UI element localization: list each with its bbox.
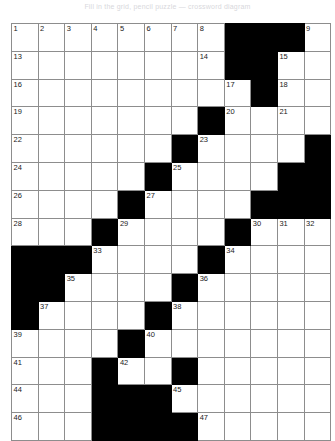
crossword-cell[interactable] — [304, 357, 331, 385]
crossword-cell[interactable] — [224, 301, 251, 329]
crossword-cell[interactable]: 26 — [12, 190, 39, 218]
crossword-cell[interactable] — [251, 107, 278, 135]
crossword-cell[interactable]: 22 — [12, 135, 39, 163]
crossword-cell[interactable] — [38, 107, 65, 135]
crossword-cell[interactable]: 6 — [144, 24, 171, 52]
crossword-cell[interactable] — [38, 413, 65, 441]
crossword-cell[interactable]: 34 — [224, 246, 251, 274]
crossword-cell[interactable] — [38, 218, 65, 246]
crossword-cell[interactable] — [304, 274, 331, 302]
crossword-cell[interactable] — [198, 357, 225, 385]
crossword-cell[interactable] — [224, 190, 251, 218]
crossword-cell[interactable]: 46 — [12, 413, 39, 441]
crossword-cell[interactable] — [224, 135, 251, 163]
crossword-cell[interactable] — [251, 413, 278, 441]
crossword-cell[interactable] — [251, 385, 278, 413]
crossword-cell[interactable] — [91, 162, 118, 190]
crossword-cell[interactable] — [171, 51, 198, 79]
crossword-cell[interactable] — [144, 274, 171, 302]
crossword-cell[interactable] — [224, 385, 251, 413]
crossword-cell[interactable] — [198, 190, 225, 218]
crossword-cell[interactable] — [65, 329, 92, 357]
crossword-cell[interactable]: 23 — [198, 135, 225, 163]
crossword-cell[interactable] — [224, 162, 251, 190]
crossword-cell[interactable]: 19 — [12, 107, 39, 135]
crossword-cell[interactable] — [224, 274, 251, 302]
crossword-cell[interactable] — [224, 413, 251, 441]
crossword-cell[interactable] — [118, 135, 145, 163]
crossword-cell[interactable] — [65, 301, 92, 329]
crossword-cell[interactable] — [38, 79, 65, 107]
crossword-cell[interactable]: 37 — [38, 301, 65, 329]
crossword-cell[interactable] — [198, 301, 225, 329]
crossword-cell[interactable] — [171, 107, 198, 135]
crossword-cell[interactable] — [65, 413, 92, 441]
crossword-cell[interactable]: 40 — [144, 329, 171, 357]
crossword-cell[interactable]: 32 — [304, 218, 331, 246]
crossword-cell[interactable] — [118, 301, 145, 329]
crossword-cell[interactable] — [65, 51, 92, 79]
crossword-cell[interactable] — [38, 357, 65, 385]
crossword-cell[interactable] — [251, 246, 278, 274]
crossword-cell[interactable]: 45 — [171, 385, 198, 413]
crossword-cell[interactable]: 38 — [171, 301, 198, 329]
crossword-cell[interactable] — [144, 357, 171, 385]
crossword-cell[interactable] — [304, 329, 331, 357]
crossword-cell[interactable] — [118, 162, 145, 190]
crossword-cell[interactable] — [304, 246, 331, 274]
crossword-cell[interactable] — [91, 329, 118, 357]
crossword-cell[interactable] — [277, 385, 304, 413]
crossword-cell[interactable] — [65, 385, 92, 413]
crossword-cell[interactable]: 9 — [304, 24, 331, 52]
crossword-cell[interactable] — [118, 79, 145, 107]
crossword-cell[interactable] — [171, 246, 198, 274]
crossword-cell[interactable] — [118, 107, 145, 135]
crossword-cell[interactable]: 27 — [144, 190, 171, 218]
crossword-cell[interactable]: 25 — [171, 162, 198, 190]
crossword-cell[interactable]: 17 — [224, 79, 251, 107]
crossword-cell[interactable] — [224, 357, 251, 385]
crossword-cell[interactable] — [251, 162, 278, 190]
crossword-cell[interactable] — [251, 329, 278, 357]
crossword-cell[interactable]: 8 — [198, 24, 225, 52]
crossword-cell[interactable] — [304, 107, 331, 135]
crossword-cell[interactable]: 5 — [118, 24, 145, 52]
crossword-cell[interactable] — [144, 218, 171, 246]
crossword-cell[interactable] — [198, 79, 225, 107]
crossword-cell[interactable] — [277, 413, 304, 441]
crossword-cell[interactable] — [65, 107, 92, 135]
crossword-cell[interactable] — [91, 79, 118, 107]
crossword-cell[interactable] — [38, 329, 65, 357]
crossword-cell[interactable] — [304, 79, 331, 107]
crossword-cell[interactable] — [65, 135, 92, 163]
crossword-cell[interactable]: 2 — [38, 24, 65, 52]
crossword-cell[interactable] — [171, 329, 198, 357]
crossword-cell[interactable] — [91, 51, 118, 79]
crossword-cell[interactable]: 24 — [12, 162, 39, 190]
crossword-cell[interactable]: 41 — [12, 357, 39, 385]
crossword-cell[interactable] — [65, 79, 92, 107]
crossword-cell[interactable] — [171, 218, 198, 246]
crossword-cell[interactable]: 28 — [12, 218, 39, 246]
crossword-cell[interactable]: 29 — [118, 218, 145, 246]
crossword-cell[interactable]: 21 — [277, 107, 304, 135]
crossword-cell[interactable] — [277, 246, 304, 274]
crossword-cell[interactable]: 31 — [277, 218, 304, 246]
crossword-cell[interactable] — [91, 190, 118, 218]
crossword-cell[interactable]: 39 — [12, 329, 39, 357]
crossword-cell[interactable] — [224, 329, 251, 357]
crossword-cell[interactable] — [144, 135, 171, 163]
crossword-cell[interactable]: 47 — [198, 413, 225, 441]
crossword-cell[interactable] — [118, 51, 145, 79]
crossword-cell[interactable] — [304, 385, 331, 413]
crossword-cell[interactable]: 7 — [171, 24, 198, 52]
crossword-cell[interactable] — [144, 246, 171, 274]
crossword-cell[interactable] — [38, 135, 65, 163]
crossword-cell[interactable] — [91, 274, 118, 302]
crossword-cell[interactable]: 13 — [12, 51, 39, 79]
crossword-cell[interactable] — [118, 274, 145, 302]
crossword-cell[interactable]: 18 — [277, 79, 304, 107]
crossword-cell[interactable] — [304, 301, 331, 329]
crossword-cell[interactable] — [65, 162, 92, 190]
crossword-cell[interactable] — [304, 413, 331, 441]
